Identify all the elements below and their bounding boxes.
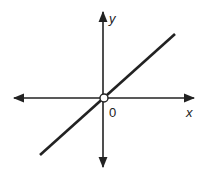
y-axis-label: y	[108, 11, 117, 26]
coordinate-graph: y x 0	[0, 0, 204, 175]
open-point-origin	[100, 94, 108, 102]
origin-label: 0	[109, 105, 116, 120]
graph-line	[40, 34, 175, 155]
x-axis-label: x	[185, 105, 193, 120]
